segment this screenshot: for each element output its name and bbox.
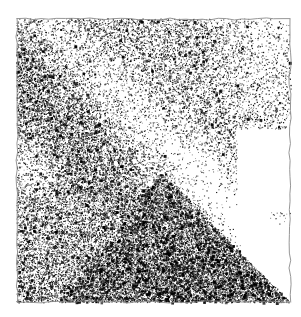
stipple-artwork: [0, 0, 301, 317]
artwork-canvas: [0, 0, 301, 317]
